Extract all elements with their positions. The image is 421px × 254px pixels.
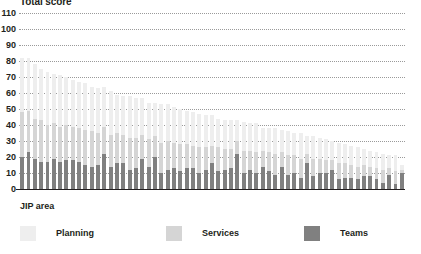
bar-segment-services [375,168,379,179]
bar-segment-services [216,147,220,171]
bar-segment-teams [235,154,239,189]
bar-segment-planning [46,72,50,125]
bar-stack [140,98,144,189]
bar-segment-teams [172,168,176,189]
bar-segment-services [121,135,125,164]
bar-segment-planning [273,128,277,154]
bar-segment-services [197,147,201,173]
bar-segment-planning [261,128,265,150]
bar-segment-services [286,155,290,174]
y-tick-label: 30 [6,137,16,146]
bar-segment-planning [318,138,322,159]
bar-segment-teams [27,152,31,189]
bar-segment-planning [305,136,309,154]
bar-segment-teams [39,162,43,189]
bar-segment-planning [166,104,170,141]
bar-stack [400,165,404,189]
bar-segment-teams [58,162,62,189]
bar-segment-planning [337,143,341,164]
bar-stack [305,136,309,189]
legend-item-teams: Teams [304,226,368,241]
bar-stack [235,120,239,189]
bar-stack [197,114,201,189]
bar-segment-services [254,152,258,173]
bar-segment-services [71,127,75,161]
bar-segment-planning [223,120,227,149]
bar-segment-teams [159,173,163,189]
bar-segment-services [27,111,31,153]
bar-segment-planning [375,152,379,168]
y-tick-label: 90 [6,41,16,50]
legend-label-planning: Planning [56,228,94,238]
bar-segment-teams [387,175,391,189]
x-axis-line [16,189,405,190]
bar-segment-teams [33,159,37,189]
bar-segment-planning [324,139,328,160]
y-tick-label: 80 [6,57,16,66]
bar-segment-teams [210,163,214,189]
bar-segment-planning [362,149,366,165]
bar-segment-teams [273,175,277,189]
bar-segment-services [362,165,366,176]
bar-segment-planning [83,83,87,129]
bar-stack [185,111,189,189]
bar-segment-services [83,130,87,165]
bar-segment-teams [229,168,233,189]
bar-segment-planning [77,82,81,128]
bar-segment-services [223,149,227,170]
bar-segment-planning [33,64,37,118]
bar-segment-planning [178,109,182,144]
bar-segment-planning [387,155,391,168]
legend-item-planning: Planning [20,226,94,241]
y-tick-label: 40 [6,121,16,130]
bar-segment-teams [216,171,220,189]
bar-segment-teams [166,170,170,189]
bar-stack [109,91,113,189]
bar-segment-teams [223,170,227,189]
bar-segment-planning [64,77,68,125]
bar-segment-teams [267,171,271,189]
bar-segment-teams [280,167,284,189]
bar-segment-teams [109,167,113,189]
bar-stack [20,58,24,189]
bar-segment-teams [52,159,56,189]
bar-stack [153,103,157,189]
bar-segment-planning [343,144,347,163]
bar-segment-planning [147,103,151,140]
bar-segment-planning [242,122,246,151]
bar-segment-services [185,144,189,168]
bar-segment-planning [121,96,125,134]
bar-segment-planning [172,107,176,142]
bar-segment-services [235,141,239,154]
bar-stack [166,104,170,189]
bars-layer [19,13,405,189]
bar-segment-planning [229,120,233,149]
bar-stack [210,115,214,189]
bar-stack [381,154,385,189]
bar-stack [102,87,106,189]
bar-segment-planning [109,91,113,134]
bar-stack [267,128,271,189]
bar-stack [115,95,119,189]
bar-segment-services [210,146,214,164]
bar-segment-teams [197,173,201,189]
bar-stack [33,64,37,189]
bar-segment-teams [286,175,290,189]
y-tick-label: 110 [1,9,16,18]
bar-segment-services [178,144,182,171]
chart-title: Total score [20,0,72,7]
bar-stack [248,123,252,189]
y-tick-label: 20 [6,153,16,162]
bar-segment-teams [102,154,106,189]
bar-segment-services [58,127,62,162]
stacked-bar-chart: Total score 1101009080706050403020100 JI… [0,0,421,254]
bar-segment-services [20,112,24,157]
bar-segment-services [52,123,56,158]
bar-segment-planning [299,133,303,159]
bar-segment-services [248,151,252,170]
legend-swatch-services [166,226,182,241]
bar-segment-services [147,139,151,166]
bar-stack [229,120,233,189]
x-axis-label: JIP area [20,201,54,211]
bar-segment-teams [20,157,24,189]
